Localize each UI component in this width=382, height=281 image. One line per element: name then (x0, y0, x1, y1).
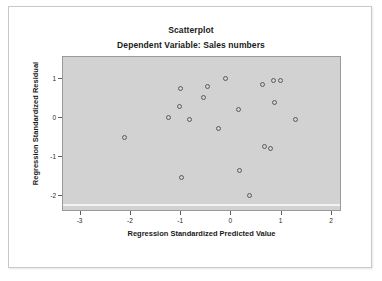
chart-figure-frame: Scatterplot Dependent Variable: Sales nu… (8, 6, 372, 268)
x-tick-label: -2 (127, 217, 133, 224)
y-axis: 10-1-2 (9, 56, 62, 211)
data-point (205, 84, 210, 89)
x-tick-mark (80, 211, 81, 215)
data-point (268, 146, 273, 151)
x-tick-mark (230, 211, 231, 215)
plot-points-layer (63, 57, 340, 210)
x-tick-label: -3 (77, 217, 83, 224)
x-tick-mark (281, 211, 282, 215)
scatter-plot-area (62, 56, 341, 211)
x-tick-mark (331, 211, 332, 215)
data-point (271, 78, 276, 83)
plot-baseline-band (63, 204, 340, 206)
chart-title: Scatterplot (9, 25, 373, 35)
data-point (122, 135, 127, 140)
data-point (187, 117, 192, 122)
x-tick-mark (180, 211, 181, 215)
data-point (178, 86, 183, 91)
data-point (237, 168, 242, 173)
data-point (278, 78, 283, 83)
data-point (201, 95, 206, 100)
x-axis-label: Regression Standardized Predicted Value (62, 229, 341, 238)
data-point (179, 175, 184, 180)
data-point (262, 144, 267, 149)
x-tick-label: -1 (177, 217, 183, 224)
y-tick-label: 0 (52, 113, 56, 120)
x-tick-label: 0 (229, 217, 233, 224)
data-point (177, 104, 182, 109)
x-tick-label: 2 (329, 217, 333, 224)
data-point (247, 193, 252, 198)
chart-subtitle: Dependent Variable: Sales numbers (9, 40, 373, 50)
x-tick-mark (130, 211, 131, 215)
data-point (223, 76, 228, 81)
data-point (293, 117, 298, 122)
y-tick-label: -2 (50, 192, 56, 199)
data-point (216, 126, 221, 131)
x-tick-label: 1 (279, 217, 283, 224)
data-point (236, 107, 241, 112)
data-point (166, 115, 171, 120)
y-tick-label: -1 (50, 153, 56, 160)
y-tick-label: 1 (52, 74, 56, 81)
data-point (272, 100, 277, 105)
data-point (260, 82, 265, 87)
